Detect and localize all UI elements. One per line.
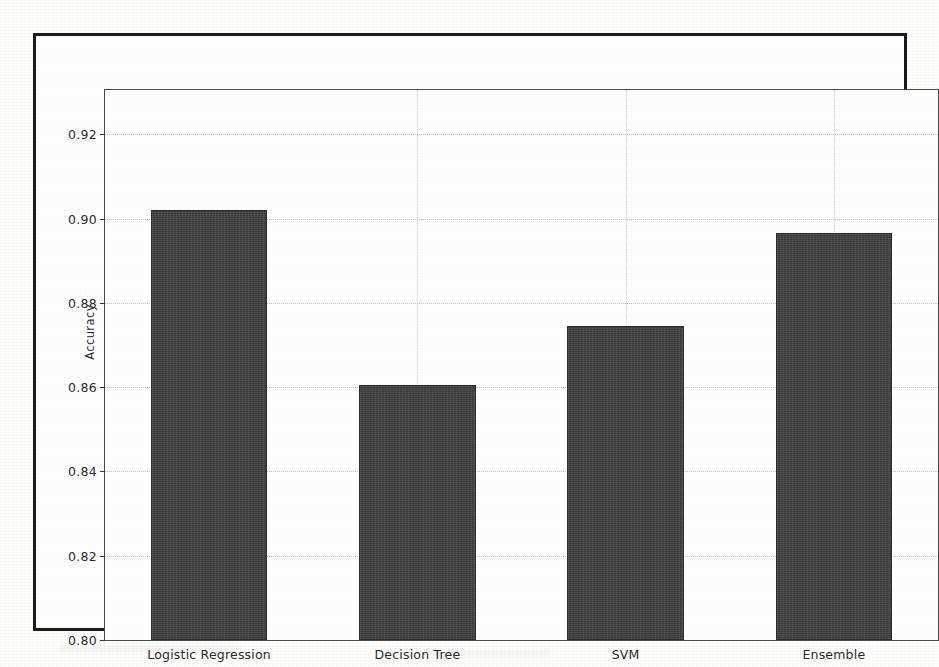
y-axis-title: Accuracy: [83, 304, 97, 360]
y-tick-label: 0.88: [68, 295, 97, 310]
bar-ensemble: [776, 233, 893, 640]
x-tick-label: SVM: [612, 647, 640, 662]
y-tick-mark: [100, 303, 105, 304]
y-tick-mark: [100, 134, 105, 135]
y-tick-mark: [100, 640, 105, 641]
y-tick-mark: [100, 387, 105, 388]
gridline-horizontal: [105, 134, 938, 135]
y-tick-label: 0.86: [68, 380, 97, 395]
scanned-page: Accuracy 0.800.820.840.860.880.900.92Log…: [0, 0, 939, 667]
x-tick-label: Logistic Regression: [147, 647, 271, 662]
figure-frame: Accuracy 0.800.820.840.860.880.900.92Log…: [33, 33, 907, 631]
bar-logistic-regression: [151, 210, 268, 640]
y-tick-mark: [100, 471, 105, 472]
y-tick-mark: [100, 219, 105, 220]
x-tick-label: Ensemble: [802, 647, 865, 662]
bar-decision-tree: [359, 385, 476, 640]
y-tick-mark: [100, 556, 105, 557]
y-tick-label: 0.84: [68, 464, 97, 479]
plot-area: 0.800.820.840.860.880.900.92Logistic Reg…: [104, 89, 939, 641]
y-tick-label: 0.80: [68, 633, 97, 648]
x-tick-label: Decision Tree: [374, 647, 460, 662]
y-tick-label: 0.82: [68, 548, 97, 563]
y-tick-label: 0.90: [68, 211, 97, 226]
bar-svm: [567, 326, 684, 640]
y-tick-label: 0.92: [68, 127, 97, 142]
